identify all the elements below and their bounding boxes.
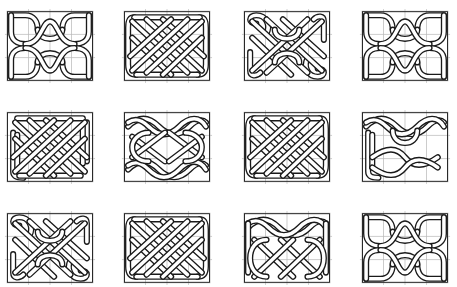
knot-drawing <box>7 213 93 283</box>
knot-panel-7 <box>244 112 330 182</box>
knot-panel-1 <box>7 11 93 81</box>
knot-panel-10 <box>124 213 210 283</box>
knot-drawing <box>7 112 93 182</box>
knot-panel-6 <box>124 112 210 182</box>
knot-panel-12 <box>362 213 448 283</box>
knot-panel-3 <box>244 11 330 81</box>
knot-panel-5 <box>7 112 93 182</box>
knot-panel-9 <box>7 213 93 283</box>
knot-panel-4 <box>362 11 448 81</box>
knot-drawing <box>124 112 210 182</box>
knot-drawing <box>124 11 210 81</box>
knot-panel-8 <box>362 112 448 182</box>
knot-drawing <box>244 112 330 182</box>
knot-drawing <box>362 11 448 81</box>
knot-drawing <box>362 213 448 283</box>
knot-drawing <box>362 112 448 182</box>
knot-drawing <box>124 213 210 283</box>
knot-drawing <box>7 11 93 81</box>
knot-drawing <box>244 213 330 283</box>
knot-panel-2 <box>124 11 210 81</box>
knot-drawing <box>244 11 330 81</box>
knot-panel-11 <box>244 213 330 283</box>
